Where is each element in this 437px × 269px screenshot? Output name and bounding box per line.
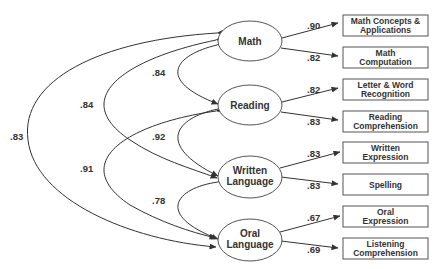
indicator-letter-word: Letter & Word Recognition	[343, 79, 428, 100]
factor-label: Language	[226, 239, 274, 250]
indicator-oral-expression: Oral Expression	[343, 206, 428, 227]
factor-reading: Reading	[218, 85, 282, 125]
factor-label: Math	[238, 36, 261, 47]
factor-math: Math	[218, 21, 282, 61]
factor-label: Language	[226, 176, 274, 187]
correlation-label-reading-written: .92	[152, 131, 165, 142]
correlation-arc-math-reading	[178, 45, 218, 104]
correlation-label-math-written: .84	[80, 99, 94, 110]
indicator-listening-comprehension: Listening Comprehension	[343, 238, 428, 259]
correlation-arc-math-written	[104, 40, 217, 178]
loading-labels: .90 .82 .82 .83 .83 .83 .67 .69	[307, 20, 320, 255]
correlation-label-written-oral: .78	[152, 195, 165, 206]
correlation-arc-math-oral	[27, 33, 217, 247]
loading-label: .67	[307, 212, 320, 223]
correlation-arc-written-oral	[178, 182, 218, 239]
loading-label: .90	[307, 20, 320, 31]
correlation-label-reading-oral: .91	[80, 163, 94, 174]
indicator-label: Recognition	[361, 89, 410, 99]
correlation-label-math-reading: .84	[152, 67, 166, 78]
factor-written-language: Written Language	[218, 156, 282, 198]
indicator-label: Expression	[363, 216, 409, 226]
loading-label: .83	[307, 148, 320, 159]
sem-diagram: .84 .92 .78 .84 .91 .83 .90 .82 .82 .83 …	[0, 0, 437, 269]
indicator-label: Comprehension	[353, 248, 418, 258]
indicator-label: Applications	[360, 25, 411, 35]
factor-oral-language: Oral Language	[218, 219, 282, 261]
loading-label: .83	[307, 116, 320, 127]
loading-label: .82	[307, 84, 320, 95]
indicator-math-computation: Math Computation	[343, 47, 428, 68]
indicator-label: Spelling	[369, 180, 402, 190]
indicator-reading-comprehension: Reading Comprehension	[343, 111, 428, 132]
loading-label: .82	[307, 52, 320, 63]
correlation-labels: .84 .92 .78 .84 .91 .83	[10, 67, 166, 206]
indicator-label: Computation	[359, 57, 411, 67]
indicator-math-concepts: Math Concepts & Applications	[343, 15, 428, 36]
loading-label: .69	[307, 244, 320, 255]
loading-label: .83	[307, 180, 320, 191]
indicator-spelling: Spelling	[343, 174, 428, 195]
factor-label: Oral	[240, 228, 260, 239]
correlation-label-math-oral: .83	[10, 131, 23, 142]
indicator-label: Expression	[363, 152, 409, 162]
indicator-label: Comprehension	[353, 121, 418, 131]
factor-label: Written	[233, 165, 267, 176]
correlation-arcs	[27, 33, 218, 247]
factor-label: Reading	[230, 100, 269, 111]
indicator-written-expression: Written Expression	[343, 142, 428, 163]
